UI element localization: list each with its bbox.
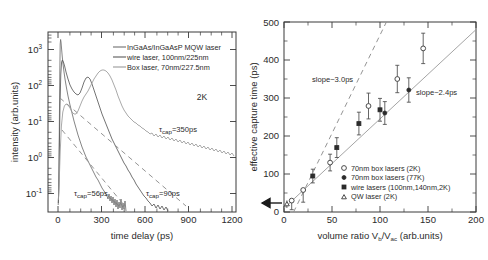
right-xtick-0: 0 [281, 214, 286, 225]
left-x-axis-title: time delay (ps) [111, 230, 173, 241]
right-x-tick-labels: 0 50 100 150 200 [281, 214, 484, 225]
data-point [366, 93, 371, 119]
intensity-decay-plot: 103 102 101 100 10-1 0 300 600 900 1200 … [0, 0, 244, 260]
intensity-decay-panel: 103 102 101 100 10-1 0 300 600 900 1200 … [0, 0, 244, 260]
right-legend: 70nm box lasers (2K) 70nm box lasers (77… [342, 164, 451, 202]
capture-time-panel: 0 100 200 300 400 500 0 50 100 150 200 e… [244, 0, 488, 260]
right-ytick-300: 300 [263, 92, 279, 103]
legend-label-box-laser: Box laser, 70nm/227.5nm [127, 63, 210, 72]
right-x-axis-title: volume ratio Vb/Vac (arb.units) [317, 230, 442, 242]
data-point [395, 65, 400, 92]
data-point [383, 102, 387, 125]
origin-arrow [262, 199, 282, 208]
legend-label-70nm-box-2k: 70nm box lasers (2K) [351, 164, 420, 173]
left-ytick-10: 101 [28, 115, 43, 127]
data-point [289, 198, 294, 209]
data-point [328, 154, 333, 171]
right-ytick-200: 200 [263, 130, 279, 141]
data-point [335, 138, 339, 158]
right-xtick-200: 200 [468, 214, 484, 225]
right-xtick-100: 100 [372, 214, 388, 225]
annotation-tau-cap-90ps: τcap=90ps [146, 189, 180, 199]
capture-time-plot: 0 100 200 300 400 500 0 50 100 150 200 e… [244, 0, 488, 260]
legend-label-70nm-box-77k: 70nm box lasers (77K) [351, 173, 424, 182]
left-ytick-1000: 103 [28, 43, 43, 55]
left-y-tick-labels: 103 102 101 100 10-1 [26, 43, 43, 199]
left-ytick-1: 100 [28, 151, 43, 163]
legend-marker-70nm-box-2k [342, 166, 347, 171]
left-x-tick-labels: 0 300 600 900 1200 [55, 214, 242, 225]
right-y-tick-labels: 0 100 200 300 400 500 [263, 17, 279, 217]
annotation-tau-cap-350ps: τcap=350ps [159, 125, 197, 135]
left-ytick-0-1: 10-1 [26, 187, 43, 199]
right-xtick-150: 150 [420, 214, 436, 225]
legend-label-wire-lasers: wire lasers (100nm,140nm,2K) [350, 183, 450, 192]
annotation-tau-cap-56ps: τcap=56ps [74, 189, 108, 199]
left-xtick-300: 300 [94, 214, 110, 225]
left-ytick-100: 102 [28, 79, 43, 91]
right-ytick-400: 400 [263, 54, 279, 65]
trace-mqw-laser [58, 40, 126, 212]
legend-label-qw-laser: QW laser (2K) [351, 192, 397, 201]
data-point [311, 169, 315, 183]
data-point [407, 78, 411, 102]
series-70nm-box-77k [383, 78, 411, 125]
legend-marker-wire-lasers [342, 185, 346, 189]
right-ytick-100: 100 [263, 168, 279, 179]
legend-label-mqw-laser: InGaAs/InGaAsP MQW laser [127, 43, 222, 52]
legend-marker-qw-laser [342, 195, 347, 199]
left-y-axis-title: intensity (arb.units) [9, 82, 20, 162]
legend-marker-70nm-box-77k [342, 176, 346, 180]
left-xtick-900: 900 [181, 214, 197, 225]
right-y-axis-title: effective capture time (ps) [248, 62, 259, 171]
trace-box-laser [58, 70, 234, 200]
left-xtick-0: 0 [55, 214, 60, 225]
right-ytick-0: 0 [274, 206, 279, 217]
left-temperature-label: 2K [197, 92, 208, 102]
annotation-slope-2-4ps: slope~2.4ps [416, 88, 457, 97]
data-point [421, 33, 426, 63]
annotation-slope-3-0ps: slope~3.0ps [312, 75, 353, 84]
legend-label-wire-laser: wire laser, 100nm/225nm [126, 53, 209, 62]
right-xtick-50: 50 [327, 214, 338, 225]
left-legend: InGaAs/InGaAsP MQW laser wire laser, 100… [113, 43, 222, 72]
left-xtick-1200: 1200 [221, 214, 242, 225]
right-ytick-500: 500 [263, 17, 279, 28]
figure-container: 103 102 101 100 10-1 0 300 600 900 1200 … [0, 0, 488, 260]
left-xtick-600: 600 [137, 214, 153, 225]
data-point [357, 112, 361, 135]
